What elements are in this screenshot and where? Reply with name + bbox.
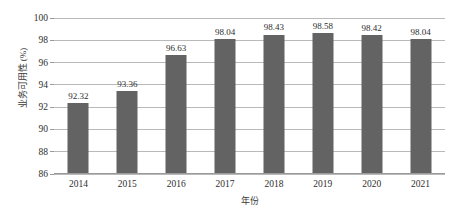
y-tick-mark xyxy=(50,84,54,85)
bar-value-label: 98.58 xyxy=(313,21,333,31)
x-tick-label: 2020 xyxy=(362,179,381,189)
bar[interactable] xyxy=(215,39,236,173)
bar[interactable] xyxy=(410,39,431,173)
gridline xyxy=(54,107,445,108)
y-tick-mark xyxy=(50,40,54,41)
y-tick-mark xyxy=(50,129,54,130)
y-tick-label: 86 xyxy=(39,169,49,179)
gridline xyxy=(54,40,445,41)
x-tick-label: 2015 xyxy=(118,179,137,189)
bar-value-label: 92.32 xyxy=(68,91,88,101)
y-tick-mark xyxy=(50,174,54,175)
y-tick-mark xyxy=(50,18,54,19)
y-tick-label: 100 xyxy=(34,13,48,23)
x-tick-label: 2016 xyxy=(167,179,186,189)
x-axis-title: 年份 xyxy=(54,194,445,207)
gridline xyxy=(54,174,445,175)
bar-value-label: 98.04 xyxy=(215,27,235,37)
bar-chart: 业务可用性 (%) 年份 8688909294969810092.3220149… xyxy=(0,0,456,218)
gridline xyxy=(54,62,445,63)
y-tick-mark xyxy=(50,62,54,63)
bar[interactable] xyxy=(263,35,284,174)
bar-value-label: 93.36 xyxy=(117,79,137,89)
gridline xyxy=(54,129,445,130)
y-tick-label: 90 xyxy=(39,124,49,134)
bar[interactable] xyxy=(361,35,382,173)
gridline xyxy=(54,84,445,85)
y-tick-label: 96 xyxy=(39,58,49,68)
y-tick-label: 92 xyxy=(39,102,49,112)
x-tick-label: 2018 xyxy=(264,179,283,189)
x-tick-label: 2021 xyxy=(411,179,430,189)
gridline xyxy=(54,18,445,19)
y-tick-label: 94 xyxy=(39,80,49,90)
y-tick-mark xyxy=(50,107,54,108)
bar-value-label: 98.42 xyxy=(362,23,382,33)
x-tick-label: 2019 xyxy=(313,179,332,189)
bar-value-label: 96.63 xyxy=(166,43,186,53)
y-tick-label: 88 xyxy=(39,147,49,157)
gridline xyxy=(54,151,445,152)
x-tick-label: 2014 xyxy=(69,179,88,189)
x-tick-label: 2017 xyxy=(216,179,235,189)
plot-area: 年份 8688909294969810092.32201493.36201596… xyxy=(54,18,445,174)
y-tick-label: 98 xyxy=(39,35,49,45)
bar[interactable] xyxy=(68,103,89,173)
bar[interactable] xyxy=(312,33,333,173)
y-tick-mark xyxy=(50,151,54,152)
bar[interactable] xyxy=(117,91,138,173)
bar-value-label: 98.04 xyxy=(410,27,430,37)
bar[interactable] xyxy=(166,55,187,173)
y-axis-title: 业务可用性 (%) xyxy=(16,0,30,158)
bar-value-label: 98.43 xyxy=(264,22,284,32)
